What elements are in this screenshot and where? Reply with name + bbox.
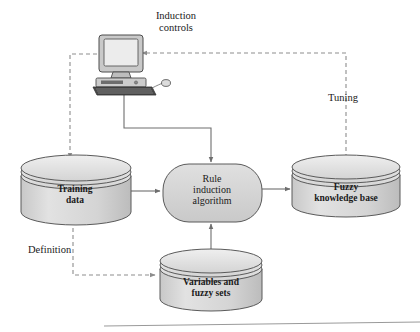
- node-fuzzy-knowledge-base[interactable]: [292, 155, 400, 217]
- edge-fuzzy-kb-to-computer: [142, 53, 346, 165]
- edge-computer-to-training-data: [70, 54, 97, 158]
- node-training-data[interactable]: [21, 155, 131, 225]
- diagram-svg: [0, 0, 420, 332]
- edge-computer-to-rule-induction: [124, 92, 211, 162]
- figure-baseline-rule: [104, 322, 420, 326]
- node-rule-induction-algorithm[interactable]: [163, 164, 262, 222]
- desktop-computer-icon[interactable]: [93, 35, 171, 95]
- edge-training-data-to-variables: [73, 228, 155, 275]
- figure-canvas: Induction controls Tuning Definition Tra…: [0, 0, 420, 332]
- node-variables-fuzzy-sets[interactable]: [160, 249, 262, 311]
